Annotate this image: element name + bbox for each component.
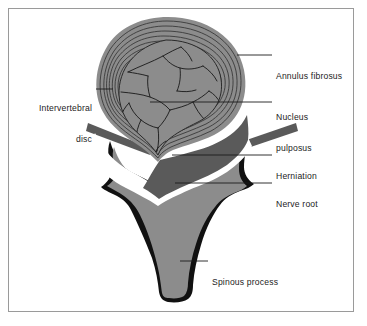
label-nerve-root-line-0: Nerve root	[276, 199, 318, 209]
label-intervertebral-disc-line-1: disc	[22, 134, 92, 144]
label-spinous-process-line-0: Spinous process	[212, 277, 278, 287]
label-annulus-fibrosus-line-0: Annulus fibrosus	[276, 71, 342, 81]
label-spinous-process: Spinous process	[212, 256, 278, 308]
figure-root: Annulus fibrosus Nucleus pulposus Interv…	[0, 0, 367, 326]
label-nucleus-pulposus-line-0: Nucleus	[276, 112, 312, 122]
label-intervertebral-disc-line-0: Intervertebral	[22, 103, 92, 113]
label-intervertebral-disc: Intervertebral disc	[22, 82, 92, 165]
label-nerve-root: Nerve root	[276, 178, 318, 230]
